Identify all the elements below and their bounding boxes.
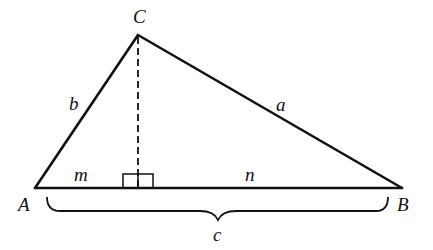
vertex-label-b: B — [397, 194, 409, 215]
side-label-a: a — [276, 94, 286, 115]
side-label-b: b — [69, 93, 79, 114]
base-c-brace — [47, 197, 388, 220]
base-label-c: c — [213, 224, 222, 245]
triangle-diagram: C A B b a c m n — [0, 0, 433, 250]
vertex-label-c: C — [133, 6, 146, 27]
segment-label-m: m — [74, 164, 88, 185]
right-angle-marker — [123, 174, 153, 188]
side-a-line — [138, 35, 402, 188]
vertex-label-a: A — [16, 194, 30, 215]
segment-label-n: n — [245, 164, 255, 185]
